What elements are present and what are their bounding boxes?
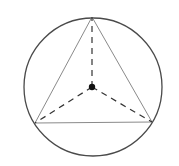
inscribed-triangle-diagram bbox=[0, 0, 179, 166]
dashed-segment bbox=[35, 87, 92, 123]
center-to-vertex-dashed-lines bbox=[35, 17, 152, 123]
center-point bbox=[89, 84, 95, 90]
equilateral-triangle bbox=[35, 17, 152, 123]
dashed-segment bbox=[92, 87, 152, 122]
